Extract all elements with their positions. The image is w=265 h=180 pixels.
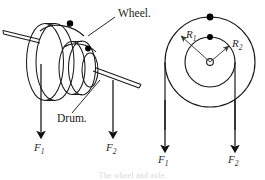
radius-symbol: R (186, 28, 193, 40)
force-subscript: 2 (235, 159, 239, 168)
attachment-dot-drum-right (207, 34, 213, 40)
force-symbol: F (158, 153, 165, 165)
attachment-dot-wheel (67, 20, 73, 26)
force-symbol: F (228, 153, 235, 165)
rope-wheel (40, 25, 84, 36)
attachment-dot-wheel-right (207, 14, 214, 21)
wheel-back-face (27, 24, 64, 101)
left-perspective-assembly (3, 24, 141, 101)
force-label-f1-left: F1 (34, 142, 44, 156)
figure-caption: The wheel and axle. (0, 171, 265, 180)
radius-subscript: 2 (239, 43, 243, 52)
force-subscript: 2 (113, 147, 117, 156)
force-label-f2-right: F2 (228, 154, 238, 168)
axle-shaft-right (93, 68, 141, 89)
radius-symbol: R (232, 37, 239, 49)
wheel-leader-line (88, 17, 115, 36)
drum-label: Drum. (57, 113, 87, 125)
radius-label-r1: R1 (186, 29, 196, 43)
force-subscript: 1 (165, 159, 169, 168)
force-subscript: 1 (41, 147, 45, 156)
force-symbol: F (106, 141, 113, 153)
attachment-dot-drum (85, 46, 91, 52)
wheel-label: Wheel. (118, 8, 151, 20)
force-label-f2-left: F2 (106, 142, 116, 156)
radius-arrow-r2 (210, 46, 229, 62)
radius-label-r2: R2 (232, 38, 242, 52)
physics-figure: Wheel. Drum. F1 F2 R1 R2 F1 F2 The wheel… (0, 0, 265, 180)
axle-shaft-left (3, 31, 40, 44)
radius-subscript: 1 (193, 34, 197, 43)
force-label-f1-right: F1 (158, 154, 168, 168)
force-symbol: F (34, 141, 41, 153)
